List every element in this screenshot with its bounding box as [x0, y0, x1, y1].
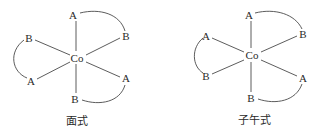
- isomer-diagrams: Co A B B A A B 面式 Co A A B B A B 子午式: [0, 0, 313, 132]
- bond-co-a-lower-right: [261, 60, 297, 76]
- fac-isomer-diagram: Co A B B A A B 面式: [14, 9, 130, 128]
- bond-co-a-upper-left: [212, 38, 244, 52]
- center-atom-label: Co: [246, 49, 259, 61]
- ligand-label: A: [122, 72, 130, 84]
- chelate-arc-top-right: [255, 11, 302, 29]
- ligand-label: A: [27, 75, 35, 87]
- ligand-label: A: [299, 72, 307, 84]
- fac-caption: 面式: [66, 115, 88, 128]
- ligand-label: B: [122, 30, 129, 42]
- ligand-label: B: [202, 70, 209, 82]
- ligand-label: B: [299, 28, 306, 40]
- ligand-label: B: [247, 92, 254, 104]
- chelate-arc-left: [194, 38, 203, 73]
- mer-caption: 子午式: [238, 114, 271, 127]
- ligand-label: B: [71, 93, 78, 105]
- chelate-arc-left: [14, 40, 27, 78]
- bond-co-a-lower-left: [37, 62, 70, 79]
- ligand-label: B: [25, 32, 32, 44]
- bond-co-b-upper-right: [261, 36, 297, 52]
- ligand-label: A: [245, 9, 253, 21]
- bond-co-b-upper-left: [35, 40, 70, 55]
- chelate-arc-top-right: [80, 11, 125, 31]
- center-atom-label: Co: [71, 52, 84, 64]
- mer-isomer-diagram: Co A A B B A B 子午式: [194, 9, 307, 127]
- chelate-arc-bottom-right: [82, 85, 125, 103]
- ligand-label: A: [202, 30, 210, 42]
- ligand-label: A: [69, 9, 77, 21]
- bond-co-b-upper-right: [86, 38, 120, 55]
- chelate-arc-bottom-right: [258, 84, 302, 102]
- bond-co-a-lower-right: [86, 62, 120, 77]
- bond-co-b-lower-left: [212, 60, 244, 74]
